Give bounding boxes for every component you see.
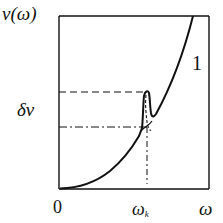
omega-k-main: ω [132, 199, 145, 219]
omega-k-label: ωk [132, 200, 149, 219]
y-axis-label: ν(ω) [2, 4, 37, 23]
x-axis-label: ω [199, 199, 212, 218]
omega-k-subscript: k [145, 209, 149, 219]
curve-1-label: 1 [192, 53, 202, 73]
figure: ν(ω) δν 0 ωk ω 1 [0, 0, 223, 223]
delta-nu-label: δν [17, 100, 34, 119]
curve-1 [60, 16, 193, 189]
origin-label: 0 [53, 198, 62, 216]
